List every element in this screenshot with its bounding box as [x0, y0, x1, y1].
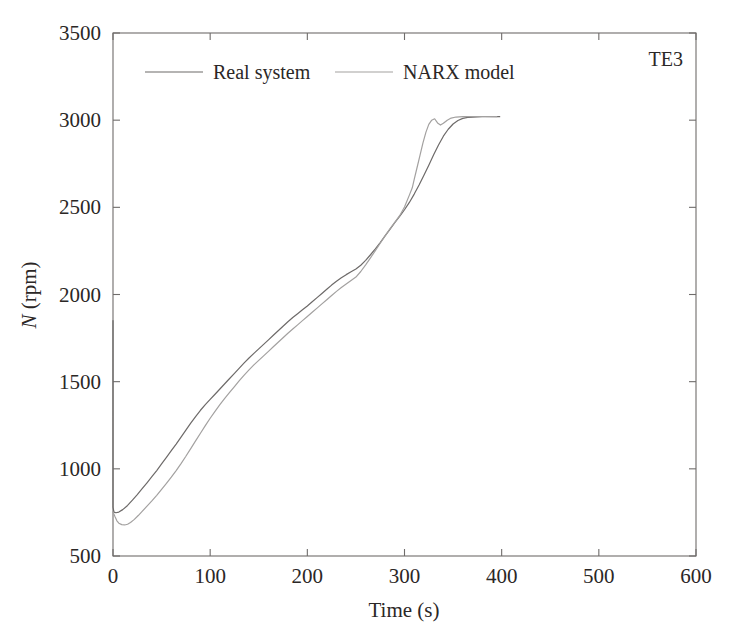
plot-annotation-label: TE3	[649, 48, 683, 70]
legend-label-1: NARX model	[403, 61, 515, 83]
y-axis-title-unit: (rpm)	[17, 261, 41, 314]
series-line-real-system	[113, 117, 500, 513]
x-tick-label-400: 400	[486, 564, 518, 588]
x-axis-title: Time (s)	[369, 598, 440, 622]
series-group	[113, 117, 500, 525]
x-axis-ticks	[113, 33, 696, 556]
y-tick-label-2000: 2000	[59, 283, 101, 307]
x-tick-label-500: 500	[583, 564, 615, 588]
y-tick-label-500: 500	[70, 544, 102, 568]
svg-text:N (rpm): N (rpm)	[17, 261, 41, 329]
line-chart: 0100200300400500600 50010001500200025003…	[0, 0, 744, 641]
plot-frame	[113, 33, 696, 556]
y-axis-title-symbol: N	[17, 314, 41, 330]
legend: Real systemNARX model	[145, 61, 515, 84]
y-tick-label-3000: 3000	[59, 108, 101, 132]
x-tick-label-600: 600	[680, 564, 712, 588]
x-tick-label-100: 100	[194, 564, 226, 588]
y-tick-label-3500: 3500	[59, 21, 101, 45]
x-tick-label-0: 0	[108, 564, 119, 588]
chart-container: 0100200300400500600 50010001500200025003…	[0, 0, 744, 641]
y-tick-label-1000: 1000	[59, 457, 101, 481]
x-axis-tick-labels: 0100200300400500600	[108, 564, 712, 588]
legend-label-0: Real system	[213, 61, 311, 84]
y-tick-label-1500: 1500	[59, 370, 101, 394]
y-axis-title: N (rpm)	[17, 261, 41, 329]
y-tick-label-2500: 2500	[59, 195, 101, 219]
x-tick-label-300: 300	[389, 564, 421, 588]
series-line-narx-model	[113, 117, 497, 525]
y-axis-tick-labels: 500100015002000250030003500	[59, 21, 101, 568]
x-tick-label-200: 200	[292, 564, 324, 588]
y-axis-ticks	[113, 33, 696, 556]
